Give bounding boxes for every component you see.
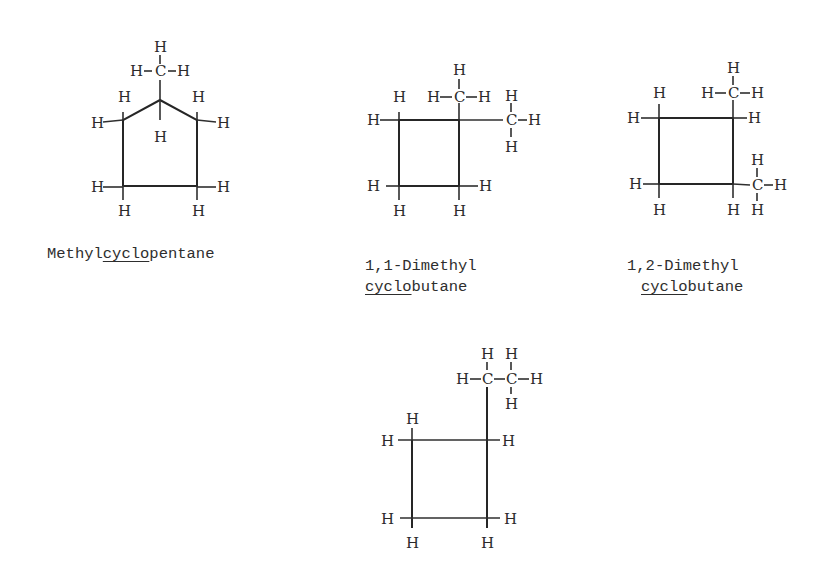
caption-underlined: cyclo xyxy=(365,278,412,296)
atom-c: C xyxy=(752,176,763,194)
atom-h: H xyxy=(118,88,131,106)
atom-h: H xyxy=(505,345,518,363)
caption-line1: 1,1-Dimethyl xyxy=(365,256,477,277)
atom-h: H xyxy=(192,88,205,106)
atom-h: H xyxy=(627,109,640,127)
atom-h: H xyxy=(748,109,761,127)
caption-prefix: Methyl xyxy=(47,245,103,263)
atom-c: C xyxy=(155,62,166,80)
atom-h: H xyxy=(217,114,230,132)
caption-underlined: cyclo xyxy=(641,278,688,296)
atom-h: H xyxy=(154,38,167,56)
atom-h: H xyxy=(528,111,541,129)
atom-h: H xyxy=(192,202,205,220)
caption-methylcyclopentane: Methylcyclopentane xyxy=(47,244,214,265)
atom-h: H xyxy=(727,201,740,219)
atom-h: H xyxy=(118,202,131,220)
atom-h: H xyxy=(701,84,714,102)
atom-h: H xyxy=(177,62,190,80)
atom-h: H xyxy=(367,111,380,129)
caption-1-1-dimethylcyclobutane: 1,1-Dimethyl cyclobutane xyxy=(365,256,477,298)
atom-h: H xyxy=(91,114,104,132)
atom-h: H xyxy=(130,62,143,80)
atom-h: H xyxy=(393,202,406,220)
caption-suffix: butane xyxy=(412,278,468,296)
structure-1-1-dimethylcyclobutane: H H C H H H H C H H H H H H xyxy=(367,61,541,220)
atom-h: H xyxy=(505,395,518,413)
atom-h: H xyxy=(774,176,787,194)
atom-h: H xyxy=(453,202,466,220)
atom-h: H xyxy=(751,84,764,102)
atom-h: H xyxy=(629,175,642,193)
atom-h: H xyxy=(478,88,491,106)
atom-h: H xyxy=(502,432,515,450)
atom-h: H xyxy=(381,510,394,528)
atom-c: C xyxy=(728,84,739,102)
atom-h: H xyxy=(217,178,230,196)
atom-h: H xyxy=(427,88,440,106)
atom-c: C xyxy=(454,88,465,106)
atom-h: H xyxy=(530,370,543,388)
atom-h: H xyxy=(381,432,394,450)
structure-1-2-dimethylcyclobutane: H H C H H H H H H C H H H H xyxy=(627,59,787,219)
atom-h: H xyxy=(154,128,167,146)
caption-suffix: butane xyxy=(688,278,744,296)
atom-c: C xyxy=(482,370,493,388)
atom-h: H xyxy=(481,534,494,552)
atom-h: H xyxy=(505,87,518,105)
atom-h: H xyxy=(727,59,740,77)
atom-h: H xyxy=(653,84,666,102)
atom-h: H xyxy=(751,151,764,169)
atom-h: H xyxy=(479,177,492,195)
caption-line1: 1,2-Dimethyl xyxy=(627,256,743,277)
atom-h: H xyxy=(367,177,380,195)
atom-h: H xyxy=(453,61,466,79)
atom-h: H xyxy=(653,201,666,219)
atom-h: H xyxy=(456,370,469,388)
atom-c: C xyxy=(506,370,517,388)
atom-h: H xyxy=(406,534,419,552)
structure-methylcyclopentane: H H C H H H H H H H H H H xyxy=(91,38,230,220)
caption-suffix: pentane xyxy=(149,245,214,263)
atom-h: H xyxy=(505,138,518,156)
atom-h: H xyxy=(393,88,406,106)
atom-h: H xyxy=(406,410,419,428)
atom-h: H xyxy=(751,201,764,219)
caption-underlined: cyclo xyxy=(103,245,150,263)
atom-h: H xyxy=(481,345,494,363)
caption-1-2-dimethylcyclobutane: 1,2-Dimethyl cyclobutane xyxy=(627,256,743,298)
atom-h: H xyxy=(504,510,517,528)
atom-c: C xyxy=(506,111,517,129)
structure-ethylcyclobutane: H H H C C H H H H H H H H H xyxy=(381,345,543,552)
atom-h: H xyxy=(91,178,104,196)
